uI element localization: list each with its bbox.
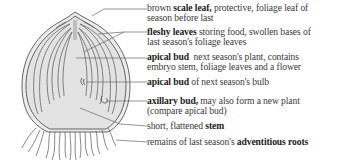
- bold-term: adventitious roots: [237, 136, 308, 147]
- bold-term: apical bud: [147, 76, 189, 87]
- label-line: apical bud of next season's bulb: [147, 77, 269, 87]
- label-scale-leaf: brown scale leaf, protective, foliage le…: [147, 3, 308, 23]
- bold-term: stem: [205, 120, 224, 131]
- label-line: last season's foliage leaves: [147, 37, 311, 47]
- label-apical-bud-plant: apical bud next season's plant, contains…: [147, 52, 301, 72]
- text: remains of last season's: [147, 136, 237, 147]
- label-stem: short, flattened stem: [147, 121, 224, 131]
- label-line: short, flattened stem: [147, 121, 224, 131]
- label-line: (compare apical bud): [147, 106, 300, 116]
- label-line: season before last: [147, 13, 308, 23]
- label-line: remains of last season's adventitious ro…: [147, 137, 308, 147]
- text: (compare apical bud): [147, 105, 227, 116]
- label-line: embryo stem, foliage leaves and a flower: [147, 62, 301, 72]
- text: last season's foliage leaves: [147, 36, 246, 47]
- label-axillary-bud: axillary bud, may also form a new plant …: [147, 96, 300, 116]
- text: short, flattened: [147, 120, 205, 131]
- label-fleshy-leaves: fleshy leaves storing food, swollen base…: [147, 27, 311, 47]
- text: season before last: [147, 12, 213, 23]
- label-apical-bud-bulb: apical bud of next season's bulb: [147, 77, 269, 87]
- text: embryo stem, foliage leaves and a flower: [147, 61, 301, 72]
- adventitious-roots-drawing: [22, 128, 116, 160]
- text: of next season's bulb: [189, 76, 269, 87]
- label-adventitious-roots: remains of last season's adventitious ro…: [147, 137, 308, 147]
- text: protective, foliage leaf of: [212, 2, 309, 13]
